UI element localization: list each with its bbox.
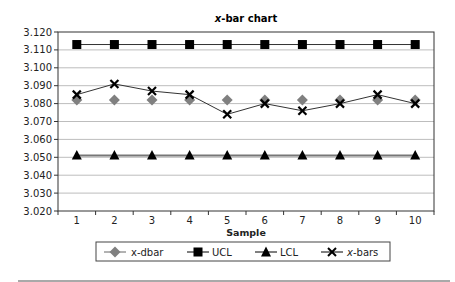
- chart-title: x-bar chart: [214, 13, 278, 24]
- x-tick-label: 2: [111, 215, 117, 226]
- series-group: [71, 40, 420, 159]
- data-point: [72, 40, 81, 49]
- data-point: [373, 40, 382, 49]
- x-axis-ticks: 12345678910: [58, 211, 434, 226]
- x-tick-label: 1: [74, 215, 80, 226]
- square-marker-icon: [194, 248, 203, 257]
- data-point: [223, 40, 232, 49]
- data-point: [110, 40, 119, 49]
- y-tick-label: 3.110: [23, 44, 52, 55]
- y-tick-label: 3.070: [23, 116, 52, 127]
- data-point: [411, 40, 420, 49]
- x-tick-label: 7: [299, 215, 305, 226]
- x-tick-label: 5: [224, 215, 230, 226]
- y-tick-label: 3.020: [23, 206, 52, 217]
- data-point: [110, 80, 118, 88]
- xbar-chart: x-bar chart 3.1203.1103.1003.0903.0803.0…: [0, 0, 455, 282]
- x-tick-label: 10: [409, 215, 422, 226]
- data-point: [223, 110, 231, 118]
- legend: x-dbar UCL LCL x-bars: [96, 242, 390, 261]
- x-tick-label: 4: [186, 215, 192, 226]
- y-tick-label: 3.030: [23, 188, 52, 199]
- x-axis-label: Sample: [226, 227, 266, 238]
- svg-text:UCL: UCL: [212, 247, 232, 258]
- series-ucl: [72, 40, 419, 49]
- y-tick-label: 3.120: [23, 27, 52, 38]
- y-tick-label: 3.050: [23, 152, 52, 163]
- data-point: [148, 40, 157, 49]
- gridlines: [58, 50, 434, 193]
- data-point: [185, 40, 194, 49]
- y-tick-label: 3.100: [23, 62, 52, 73]
- y-tick-label: 3.040: [23, 170, 52, 181]
- y-tick-label: 3.080: [23, 98, 52, 109]
- y-axis-ticks: 3.1203.1103.1003.0903.0803.0703.0603.050…: [23, 27, 58, 217]
- svg-text:x-bars: x-bars: [346, 247, 378, 258]
- data-point: [298, 40, 307, 49]
- svg-text:x-dbar: x-dbar: [131, 247, 164, 258]
- y-tick-label: 3.090: [23, 80, 52, 91]
- svg-text:LCL: LCL: [280, 247, 299, 258]
- data-point: [336, 40, 345, 49]
- x-tick-label: 3: [149, 215, 155, 226]
- y-tick-label: 3.060: [23, 134, 52, 145]
- x-tick-label: 8: [337, 215, 343, 226]
- data-point: [260, 40, 269, 49]
- data-point: [298, 107, 306, 115]
- x-tick-label: 6: [262, 215, 268, 226]
- series-lcl: [72, 150, 420, 160]
- x-tick-label: 9: [374, 215, 380, 226]
